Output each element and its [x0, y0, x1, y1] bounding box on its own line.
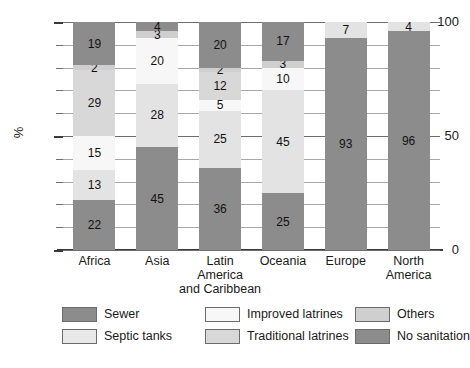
- bar-stack: 937: [325, 22, 367, 250]
- legend-label: Sewer: [104, 308, 139, 321]
- legend-item[interactable]: Sewer: [62, 307, 205, 322]
- y-tick-70: [56, 90, 63, 91]
- legend-item[interactable]: Septic tanks: [62, 329, 205, 344]
- bar-segment-value: 13: [73, 179, 115, 191]
- gridline-30: [63, 182, 440, 183]
- gridline-100: [63, 22, 440, 23]
- bar-segment: 19: [73, 22, 115, 65]
- bar-segment-value: 10: [262, 73, 304, 85]
- bar-segment-value: 25: [199, 133, 241, 145]
- bar-segment: 7: [325, 22, 367, 38]
- bar-segment: 36: [199, 168, 241, 250]
- bar-segment: 5: [199, 100, 241, 111]
- bar-segment: 28: [136, 84, 178, 148]
- legend-item[interactable]: Improved latrines: [205, 307, 355, 322]
- bar-segment: 25: [199, 111, 241, 168]
- legend-swatch: [205, 307, 240, 322]
- bar-segment-value: 45: [262, 136, 304, 148]
- bar-segment-value: 4: [388, 21, 430, 33]
- legend-swatch: [355, 307, 390, 322]
- bar-segment-value: 22: [73, 219, 115, 231]
- bar-segment-value: 25: [262, 216, 304, 228]
- bar-segment-value: 29: [73, 97, 115, 109]
- bar-segment-value: 7: [325, 24, 367, 36]
- bar-segment: 17: [262, 22, 304, 61]
- y-tick-20: [56, 204, 63, 205]
- bar-stack: 45282034: [136, 22, 178, 250]
- bar-segment: 2: [199, 68, 241, 73]
- y-tick-40: [56, 159, 63, 160]
- gridline-90: [63, 45, 440, 46]
- bar-segment-value: 12: [199, 80, 241, 92]
- bar-column: 254510317: [262, 22, 304, 250]
- plot-area: 2213152921945282034362551222025451031793…: [63, 22, 440, 250]
- bar-segment: 13: [73, 170, 115, 200]
- bar-segment: 45: [136, 147, 178, 250]
- x-axis-label-line: America: [177, 268, 263, 282]
- bar-segment-value: 28: [136, 109, 178, 121]
- bar-segment-value: 96: [388, 135, 430, 147]
- gridline-20: [63, 204, 440, 205]
- bar-segment-value: 4: [136, 21, 178, 33]
- bar-column: 3625512220: [199, 22, 241, 250]
- bar-segment-value: 93: [325, 138, 367, 150]
- bar-stack: 22131529219: [73, 22, 115, 250]
- legend-item[interactable]: No sanitation: [355, 329, 444, 344]
- legend-swatch: [62, 329, 97, 344]
- bar-segment: 4: [388, 22, 430, 31]
- bar-segment: 20: [136, 38, 178, 84]
- bar-segment: 15: [73, 136, 115, 170]
- legend-swatch: [62, 307, 97, 322]
- legend-label: Improved latrines: [247, 308, 343, 321]
- bar-segment: 3: [262, 61, 304, 68]
- y-tick-80: [56, 68, 63, 69]
- bar-segment-value: 5: [199, 99, 241, 111]
- bar-segment: 45: [262, 90, 304, 193]
- bar-segment-value: 20: [199, 39, 241, 51]
- bar-segment-value: 17: [262, 35, 304, 47]
- y-tick-90: [56, 45, 63, 46]
- y-tick-100: [54, 22, 63, 24]
- gridline-80: [63, 68, 440, 69]
- bar-segment: 20: [199, 22, 241, 68]
- x-axis-label-line: and Caribbean: [177, 282, 263, 296]
- bar-segment: 93: [325, 38, 367, 250]
- bar-segment: 4: [136, 22, 178, 31]
- x-axis-label-line: North: [366, 254, 452, 268]
- bar-stack: 3625512220: [199, 22, 241, 250]
- x-axis-label-line: America: [366, 268, 452, 282]
- bar-segment-value: 36: [199, 203, 241, 215]
- legend-swatch: [355, 329, 390, 344]
- legend-label: Septic tanks: [104, 330, 172, 343]
- legend-label: No sanitation: [397, 330, 470, 343]
- legend-label: Others: [397, 308, 435, 321]
- chart-legend: SewerImproved latrinesOthersSeptic tanks…: [62, 303, 444, 347]
- bar-column: 22131529219: [73, 22, 115, 250]
- y-axis-title: %: [12, 127, 25, 139]
- bar-column: 937: [325, 22, 367, 250]
- bar-segment: 29: [73, 70, 115, 136]
- y-tick-60: [56, 113, 63, 114]
- y-tick-10: [56, 227, 63, 228]
- gridline-40: [63, 159, 440, 160]
- legend-item[interactable]: Traditional latrines: [205, 329, 355, 344]
- gridline-70: [63, 90, 440, 91]
- bar-segment-value: 20: [136, 55, 178, 67]
- legend-label: Traditional latrines: [247, 330, 349, 343]
- gridline-60: [63, 113, 440, 114]
- x-axis-label: NorthAmerica: [366, 254, 452, 282]
- bar-stack: 964: [388, 22, 430, 250]
- gridline-50: [63, 136, 440, 137]
- bar-segment-value: 19: [73, 38, 115, 50]
- bar-segment: 22: [73, 200, 115, 250]
- bar-segment-value: 15: [73, 147, 115, 159]
- gridline-10: [63, 227, 440, 228]
- bar-segment-value: 45: [136, 193, 178, 205]
- y-tick-50: [54, 136, 63, 138]
- legend-item[interactable]: Others: [355, 307, 444, 322]
- bar-segment: 96: [388, 31, 430, 250]
- bar-column: 45282034: [136, 22, 178, 250]
- bar-segment: 2: [73, 65, 115, 70]
- legend-swatch: [205, 329, 240, 344]
